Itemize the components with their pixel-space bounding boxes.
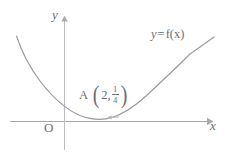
- x-axis-label: x: [210, 119, 216, 132]
- coordinate-close-paren: ): [121, 86, 128, 105]
- fraction-denominator: 4: [112, 96, 118, 105]
- function-label-fx: f(x): [166, 27, 185, 41]
- function-label-equals: =: [157, 27, 166, 41]
- y-axis: [61, 16, 67, 151]
- coordinate-diagram: [0, 0, 247, 159]
- function-label: y=f(x): [151, 28, 184, 41]
- point-a-coordinates: ( 2, 1 4 ): [92, 85, 128, 105]
- point-a-name: A: [79, 89, 88, 102]
- point-a-label: A ( 2, 1 4 ): [79, 85, 128, 105]
- function-label-y: y: [151, 27, 157, 41]
- origin-label: O: [44, 121, 53, 134]
- parabola-curve: [17, 36, 215, 119]
- coordinate-comma: ,: [108, 89, 111, 102]
- coordinate-open-paren: (: [93, 86, 100, 105]
- coordinate-y-fraction: 1 4: [112, 85, 119, 105]
- y-axis-label: y: [52, 8, 58, 21]
- y-axis-arrowhead: [61, 16, 67, 22]
- fraction-numerator: 1: [112, 85, 118, 94]
- figure-canvas: y x O y=f(x) A ( 2, 1 4 ): [0, 0, 247, 159]
- x-axis: [10, 118, 214, 125]
- coordinate-values: 2, 1 4: [100, 85, 119, 105]
